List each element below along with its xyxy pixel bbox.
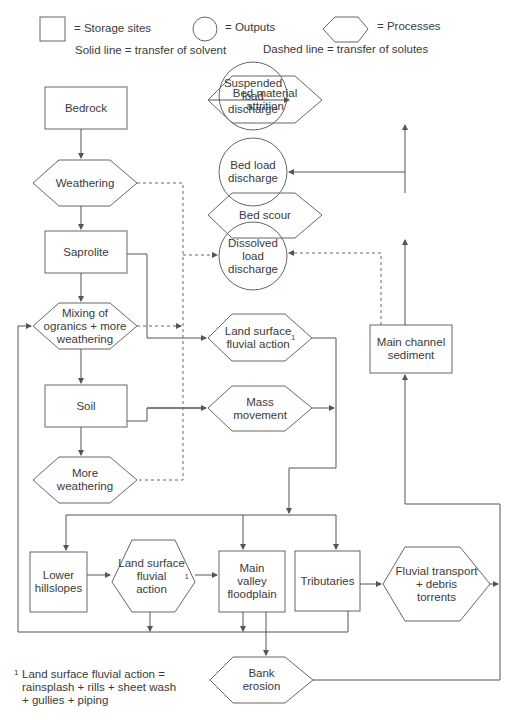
label-bed-attrition: Bed material attrition [208,76,322,123]
label-saprolite: Saprolite [45,231,127,273]
legend-storage-label: = Storage sites [74,22,151,34]
label-fluvial-transport: Fluvial transport + debris torrents [383,547,490,621]
label-land-surface-bottom: Land surface fluvial action1 [112,540,195,612]
label-soil: Soil [45,385,127,427]
legend-storage-icon [40,17,65,41]
legend-processes-label: = Processes [377,20,441,32]
label-land-surface-top: Land surface fluvial action1 [208,314,312,361]
label-main-valley: Main valley floodplain [219,551,285,612]
label-more-weathering: More weathering [33,457,137,503]
legend-dashed-label: Dashed line = transfer of solutes [263,43,428,55]
label-mass-movement: Mass movement [208,386,312,431]
label-bed-scour: Bed scour [208,193,322,238]
footnote-text: Land surface fluvial action = rainsplash… [22,668,176,707]
label-mixing: Mixing of ogranics + more weathering [33,303,137,349]
label-bedrock: Bedrock [45,87,127,129]
footnote-mark: 1 [14,666,18,679]
legend-solid-label: Solid line = transfer of solvent [75,44,226,56]
legend-process-icon [323,17,368,42]
legend-outputs-label: = Outputs [225,21,275,33]
label-main-channel: Main channel sediment [370,325,452,373]
label-tributaries: Tributaries [295,551,360,611]
label-lower-hillslopes: Lower hillslopes [30,552,87,612]
legend-output-icon [193,17,217,41]
label-weathering: Weathering [33,160,137,206]
label-bank-erosion: Bank erosion [210,657,313,703]
